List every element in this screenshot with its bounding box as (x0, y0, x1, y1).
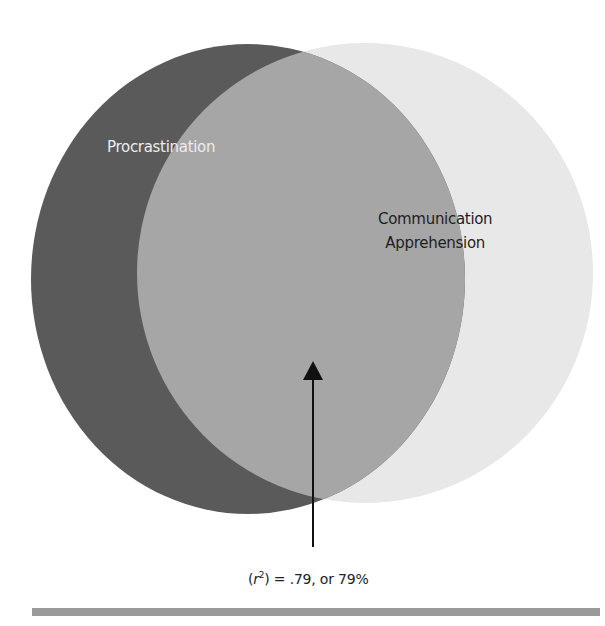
venn-diagram (0, 0, 605, 626)
r-squared-annotation: (r2) = .79, or 79% (248, 570, 369, 587)
communication-label-line2: Apprehension (378, 231, 492, 255)
footer-divider-bar (32, 608, 600, 616)
communication-label-line1: Communication (378, 207, 492, 231)
communication-apprehension-label: Communication Apprehension (378, 207, 492, 255)
annotation-suffix: ) = .79, or 79% (264, 571, 368, 587)
procrastination-label: Procrastination (107, 138, 215, 156)
